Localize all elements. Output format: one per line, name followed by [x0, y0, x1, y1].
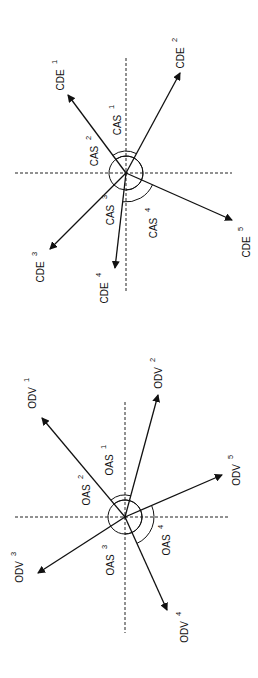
svg-text:CAS: CAS: [89, 145, 100, 166]
svg-text:3: 3: [9, 552, 18, 556]
vector-label-1: CDE1: [50, 60, 66, 91]
svg-text:1: 1: [99, 445, 108, 449]
svg-text:1: 1: [50, 60, 59, 64]
svg-text:2: 2: [84, 136, 93, 140]
svg-text:ODV: ODV: [14, 561, 25, 583]
angle-label-3: CAS3: [100, 195, 116, 225]
vector-label-2: CDE2: [170, 38, 186, 69]
vector-label-3: CDE3: [30, 252, 46, 283]
vector-label-5: ODV5: [226, 455, 242, 486]
svg-text:CAS: CAS: [148, 217, 159, 238]
angle-vector-diagrams: CDE1CDE2CDE3CDE4CDE5CAS1CAS2CAS3CAS4ODV1…: [0, 0, 258, 678]
svg-text:2: 2: [170, 38, 179, 42]
vector-2: [125, 395, 158, 517]
svg-text:1: 1: [22, 378, 31, 382]
svg-text:3: 3: [100, 195, 109, 199]
svg-text:4: 4: [156, 525, 165, 529]
vector-2: [126, 73, 180, 173]
diagram-odv: ODV1ODV2ODV3ODV4ODV5OAS1OAS2OAS3OAS4: [9, 358, 242, 643]
angle-label-2: OAS2: [76, 475, 92, 506]
angle-label-1: CAS1: [107, 105, 123, 135]
svg-text:2: 2: [76, 475, 85, 479]
vector-label-2: ODV2: [148, 358, 164, 389]
angle-label-3: OAS3: [100, 545, 116, 576]
svg-text:ODV: ODV: [179, 621, 190, 643]
svg-text:4: 4: [143, 208, 152, 212]
svg-text:4: 4: [174, 612, 183, 616]
svg-text:CDE: CDE: [35, 261, 46, 282]
vector-5: [126, 173, 232, 220]
svg-text:OAS: OAS: [81, 484, 92, 505]
angle-arc-1: [113, 151, 137, 155]
svg-text:5: 5: [236, 227, 245, 231]
svg-text:CDE: CDE: [175, 47, 186, 68]
svg-text:OAS: OAS: [105, 554, 116, 575]
vector-label-4: ODV4: [174, 612, 190, 643]
svg-text:ODV: ODV: [27, 387, 38, 409]
angle-label-4: CAS4: [143, 208, 159, 238]
vector-label-1: ODV1: [22, 378, 38, 409]
angle-label-4: OAS4: [156, 525, 172, 556]
svg-text:3: 3: [30, 252, 39, 256]
angle-label-1: OAS1: [99, 445, 115, 476]
svg-text:CDE: CDE: [241, 236, 252, 257]
svg-text:1: 1: [107, 105, 116, 109]
svg-text:CDE: CDE: [99, 282, 110, 303]
vector-label-4: CDE4: [94, 273, 110, 304]
svg-text:5: 5: [226, 455, 235, 459]
svg-text:4: 4: [94, 273, 103, 277]
origin-point: [125, 172, 128, 175]
svg-text:ODV: ODV: [231, 464, 242, 486]
svg-text:CDE: CDE: [55, 69, 66, 90]
svg-text:ODV: ODV: [153, 367, 164, 389]
svg-text:CAS: CAS: [112, 114, 123, 135]
vector-label-5: CDE5: [236, 227, 252, 258]
vector-5: [125, 475, 222, 517]
svg-text:OAS: OAS: [104, 454, 115, 475]
angle-arc-4: [123, 185, 153, 202]
diagram-cde: CDE1CDE2CDE3CDE4CDE5CAS1CAS2CAS3CAS4: [15, 38, 252, 304]
angle-arc-1: [111, 495, 131, 500]
vector-4: [125, 517, 167, 610]
svg-text:2: 2: [148, 358, 157, 362]
origin-point: [124, 516, 127, 519]
svg-text:CAS: CAS: [105, 204, 116, 225]
svg-text:OAS: OAS: [161, 534, 172, 555]
angle-label-2: CAS2: [84, 136, 100, 166]
vector-label-3: ODV3: [9, 552, 25, 583]
svg-text:3: 3: [100, 545, 109, 549]
